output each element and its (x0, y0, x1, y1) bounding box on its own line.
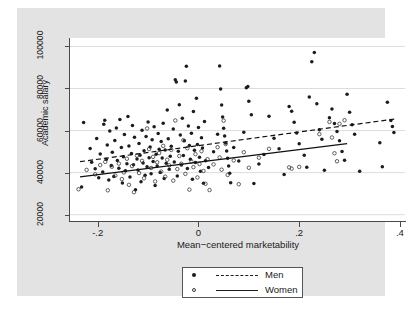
data-point (335, 160, 339, 164)
data-point (145, 127, 149, 131)
data-point (343, 158, 347, 162)
data-point (185, 64, 189, 68)
legend-box[interactable]: Men Women (182, 267, 303, 298)
data-point (208, 188, 212, 192)
data-point (157, 151, 161, 155)
data-point (297, 142, 301, 146)
data-point (77, 187, 81, 191)
data-point (123, 133, 127, 137)
data-point (232, 146, 236, 150)
data-point (102, 122, 106, 126)
data-point (169, 154, 173, 158)
data-point (172, 127, 176, 131)
data-point (115, 126, 119, 130)
data-point (170, 145, 174, 149)
legend-label-women: Women (265, 284, 298, 295)
data-point (125, 162, 129, 166)
legend-entry-women[interactable]: Women (183, 283, 302, 298)
figure-canvas: 20000400006000080000100000 -.20.2.4 Acad… (17, 8, 385, 296)
data-point (229, 181, 233, 185)
data-point (113, 139, 117, 143)
legend-entry-men[interactable]: Men (183, 268, 302, 283)
data-point (303, 154, 307, 158)
data-point (165, 158, 169, 162)
data-point (200, 149, 204, 153)
data-point (221, 115, 225, 119)
data-point (333, 122, 337, 126)
data-point (153, 184, 157, 188)
data-point (297, 165, 301, 169)
data-point (267, 115, 271, 119)
data-point (287, 105, 291, 109)
data-point (142, 177, 146, 181)
data-point (161, 121, 165, 125)
data-point (142, 149, 146, 153)
data-point (106, 143, 110, 147)
data-point (257, 162, 261, 166)
data-point (146, 120, 150, 124)
data-point (247, 100, 251, 104)
data-point (203, 120, 207, 124)
data-point (147, 156, 151, 160)
data-point (187, 124, 191, 128)
data-point (220, 103, 224, 107)
data-point (290, 109, 294, 113)
data-point (128, 175, 132, 179)
data-point (335, 130, 339, 134)
x-tick-label: -.2 (78, 227, 118, 238)
data-point (198, 162, 202, 166)
data-point (197, 126, 201, 130)
data-point (345, 92, 349, 96)
data-point (137, 142, 141, 146)
data-point (318, 132, 322, 136)
data-point (144, 135, 148, 139)
y-tick (65, 46, 70, 47)
data-point (101, 170, 105, 174)
data-point (167, 168, 171, 172)
data-point (82, 121, 86, 125)
data-point (176, 167, 180, 171)
data-point (222, 126, 226, 129)
data-point (323, 169, 327, 173)
data-point (196, 143, 200, 147)
data-point (111, 150, 115, 154)
data-point (85, 168, 89, 172)
data-point (151, 160, 155, 164)
data-point (121, 181, 125, 185)
filled-circle-icon (192, 273, 196, 277)
x-axis-title: Mean−centered marketability (70, 239, 406, 250)
data-point (277, 147, 281, 151)
data-point (106, 189, 110, 193)
data-point (223, 134, 227, 138)
data-point (196, 176, 200, 180)
data-point (328, 120, 332, 124)
data-point (198, 156, 202, 160)
y-axis-title: Academic salary (40, 53, 50, 173)
data-point (305, 165, 309, 169)
y-tick (65, 88, 70, 89)
data-point (153, 180, 157, 184)
data-point (179, 133, 183, 137)
data-point (242, 150, 246, 154)
data-point (378, 141, 382, 145)
data-point (117, 162, 121, 166)
data-point (166, 137, 170, 141)
data-point (93, 167, 97, 171)
data-point (195, 96, 199, 100)
data-point (320, 137, 324, 141)
data-point (191, 177, 195, 181)
data-point (98, 152, 102, 156)
data-point (222, 119, 226, 123)
data-point (131, 124, 135, 128)
data-point (392, 131, 396, 135)
data-point (160, 156, 164, 160)
data-point (227, 164, 231, 168)
data-point (343, 118, 347, 122)
data-point (178, 154, 182, 158)
data-point (90, 161, 94, 165)
data-point (161, 144, 165, 148)
data-point (149, 172, 153, 176)
data-point (126, 115, 129, 119)
data-point (103, 118, 107, 122)
data-point (353, 133, 357, 137)
